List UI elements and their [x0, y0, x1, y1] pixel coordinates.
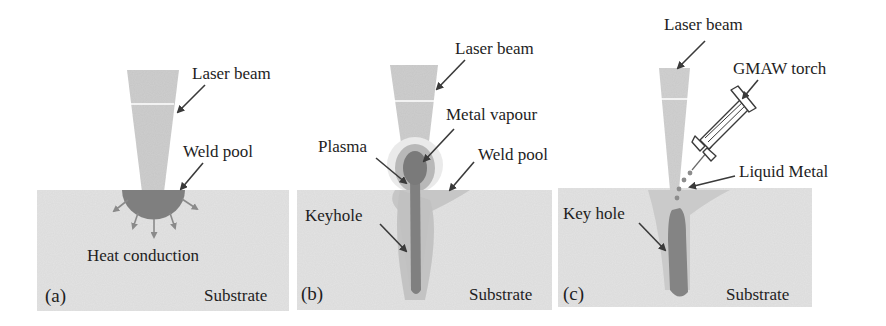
label-heat-conduction: Heat conduction	[87, 246, 199, 265]
panel-tag-a: (a)	[45, 285, 66, 307]
laser-beam-pointer	[178, 85, 205, 112]
weld-pool-pointer	[450, 162, 474, 190]
label-weld-pool: Weld pool	[478, 145, 548, 164]
panel-tag-c: (c)	[563, 283, 584, 305]
label-metal-vapour: Metal vapour	[446, 105, 537, 124]
label-laser-beam: Laser beam	[455, 39, 534, 58]
label-key-hole: Key hole	[563, 204, 625, 223]
label-gmaw-torch: GMAW torch	[733, 59, 827, 78]
label-substrate: Substrate	[204, 286, 267, 305]
panel-tag-b: (b)	[301, 283, 323, 305]
label-laser-beam: Laser beam	[664, 15, 743, 34]
label-substrate: Substrate	[469, 285, 532, 304]
laser-welding-diagram: Laser beam Weld pool Heat conduction Sub…	[0, 0, 886, 326]
label-plasma: Plasma	[318, 137, 368, 156]
keyhole	[668, 208, 688, 297]
laser-beam	[659, 68, 690, 190]
panel-c: Laser beam GMAW torch Liquid Metal Key h…	[558, 15, 829, 307]
label-substrate: Substrate	[726, 285, 789, 304]
laser-beam-pointer	[437, 60, 465, 89]
gmaw-torch-icon	[692, 86, 756, 170]
label-liquid-metal: Liquid Metal	[739, 162, 829, 181]
laser-beam-pointer	[678, 41, 705, 68]
label-weld-pool: Weld pool	[183, 142, 253, 161]
label-keyhole: Keyhole	[305, 206, 363, 225]
laser-beam	[127, 70, 179, 192]
metal-vapour	[403, 151, 427, 185]
gmaw-torch-pointer	[743, 80, 758, 98]
liquid-metal-pointer	[690, 176, 735, 187]
panel-a: Laser beam Weld pool Heat conduction Sub…	[37, 64, 289, 311]
weld-pool-pointer	[181, 163, 203, 189]
label-laser-beam: Laser beam	[192, 64, 271, 83]
panel-b: Laser beam Metal vapour Plasma Weld pool…	[297, 39, 552, 310]
keyhole	[410, 175, 421, 294]
